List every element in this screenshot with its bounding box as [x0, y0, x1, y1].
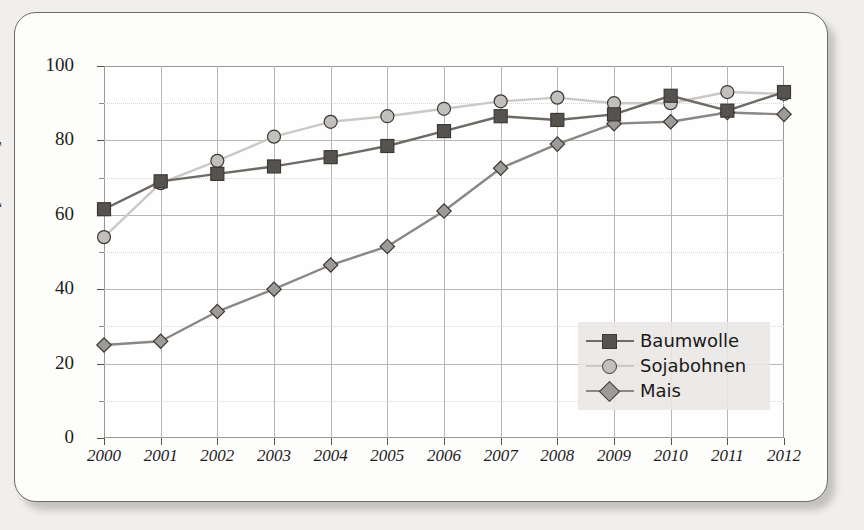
- legend-marker-square-icon: [586, 331, 634, 351]
- x-tick-mark: [331, 438, 332, 445]
- x-tick-label: 2012: [749, 446, 819, 466]
- x-tick-mark: [274, 438, 275, 445]
- x-tick-mark: [614, 438, 615, 445]
- y-axis-title: [Prozent]: [0, 139, 3, 208]
- legend-label-baumwolle: Baumwolle: [640, 330, 739, 351]
- legend-item-sojabohnen: Sojabohnen: [586, 353, 764, 378]
- gridline-vertical: [444, 66, 445, 438]
- legend-label-sojabohnen: Sojabohnen: [640, 355, 746, 376]
- y-tick-mark: [97, 289, 104, 290]
- y-tick-mark-minor: [99, 326, 104, 327]
- legend-marker-diamond-icon: [586, 381, 634, 401]
- y-tick-mark-minor: [99, 252, 104, 253]
- legend-item-mais: Mais: [586, 378, 764, 403]
- gridline-vertical: [331, 66, 332, 438]
- chart-legend: Baumwolle Sojabohnen Mais: [578, 322, 770, 410]
- x-tick-mark: [557, 438, 558, 445]
- y-tick-label: 40: [14, 277, 74, 299]
- x-tick-mark: [501, 438, 502, 445]
- page-background: [Prozent] 020406080100 20002001200220032…: [0, 0, 864, 530]
- y-tick-mark: [97, 364, 104, 365]
- gridline-vertical: [217, 66, 218, 438]
- chart-figure: [Prozent] 020406080100 20002001200220032…: [0, 0, 864, 530]
- y-tick-label: 0: [14, 426, 74, 448]
- x-tick-mark: [161, 438, 162, 445]
- y-tick-label: 80: [14, 128, 74, 150]
- y-tick-mark: [97, 140, 104, 141]
- y-tick-label: 100: [14, 54, 74, 76]
- y-tick-label: 20: [14, 352, 74, 374]
- legend-item-baumwolle: Baumwolle: [586, 328, 764, 353]
- y-tick-mark: [97, 438, 104, 439]
- x-tick-mark: [784, 438, 785, 445]
- x-tick-mark: [444, 438, 445, 445]
- gridline-vertical: [387, 66, 388, 438]
- y-tick-mark-minor: [99, 178, 104, 179]
- x-tick-mark: [217, 438, 218, 445]
- gridline-vertical: [161, 66, 162, 438]
- x-tick-mark: [671, 438, 672, 445]
- gridline-vertical: [557, 66, 558, 438]
- y-tick-label: 60: [14, 203, 74, 225]
- y-tick-mark: [97, 66, 104, 67]
- y-tick-mark-minor: [99, 401, 104, 402]
- x-tick-mark: [104, 438, 105, 445]
- x-tick-mark: [387, 438, 388, 445]
- y-tick-mark: [97, 215, 104, 216]
- x-tick-mark: [727, 438, 728, 445]
- gridline-vertical: [501, 66, 502, 438]
- y-tick-mark-minor: [99, 103, 104, 104]
- legend-marker-circle-icon: [586, 356, 634, 376]
- gridline-vertical: [274, 66, 275, 438]
- legend-label-mais: Mais: [640, 380, 681, 401]
